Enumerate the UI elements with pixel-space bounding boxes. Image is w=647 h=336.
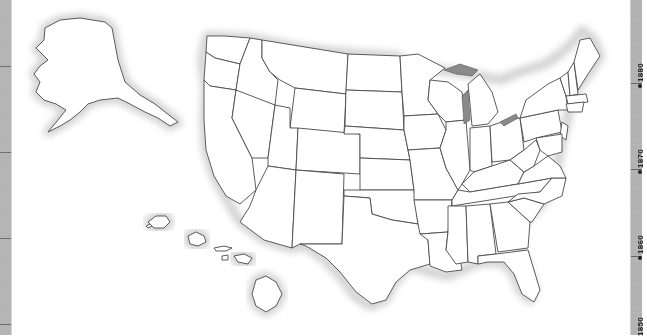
hawaii-molokai[interactable] <box>214 246 232 251</box>
state-north-dakota[interactable] <box>346 54 402 92</box>
timeline-year: 1880 <box>636 63 645 82</box>
state-wyoming[interactable] <box>290 88 346 134</box>
state-indiana[interactable] <box>470 126 492 172</box>
state-mississippi[interactable] <box>446 206 468 264</box>
state-delaware-maryland[interactable] <box>536 134 562 156</box>
state-iowa[interactable] <box>404 114 446 150</box>
state-new-mexico[interactable] <box>292 170 344 248</box>
state-alaska[interactable] <box>34 18 178 132</box>
timeline-year: 1850 <box>636 317 645 336</box>
state-kansas[interactable] <box>360 158 414 190</box>
timeline-marker-dot <box>638 84 642 88</box>
timeline-marker-dot <box>638 170 642 174</box>
state-arkansas[interactable] <box>414 200 452 234</box>
timeline-year: 1860 <box>636 235 645 254</box>
timeline-label-1860[interactable]: 1860 <box>634 230 646 260</box>
state-colorado[interactable] <box>296 128 360 174</box>
state-florida[interactable] <box>478 250 540 302</box>
hawaii-lanai[interactable] <box>222 255 228 260</box>
alaska <box>34 18 178 132</box>
state-connecticut-ri[interactable] <box>566 102 584 112</box>
timeline-marker-dot <box>638 256 642 260</box>
state-new-york[interactable] <box>520 78 568 118</box>
contiguous-us <box>202 30 600 306</box>
timeline-label-1850[interactable]: 1850 <box>634 312 646 336</box>
state-south-dakota[interactable] <box>345 90 404 130</box>
timeline-year: 1870 <box>636 149 645 168</box>
timeline-label-1870[interactable]: 1870 <box>634 144 646 174</box>
timeline-label-1880[interactable]: 1880 <box>634 58 646 88</box>
